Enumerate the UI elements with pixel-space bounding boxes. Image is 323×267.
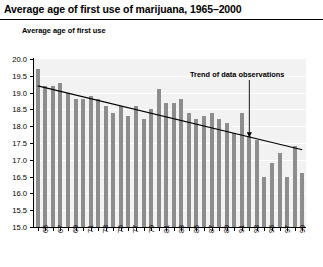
x-tick-mark (83, 228, 84, 231)
x-tick-mark (76, 228, 77, 231)
y-axis-caption: Average age of first use (22, 26, 106, 35)
x-tick-mark (136, 228, 137, 231)
page-title: Average age of first use of marijuana, 1… (4, 3, 242, 15)
x-tick-mark (98, 228, 99, 231)
chart-page: Average age of first use of marijuana, 1… (0, 0, 323, 267)
plot-area (34, 59, 306, 227)
x-tick-mark (242, 228, 243, 231)
x-tick-mark (295, 228, 296, 231)
x-tick-mark (287, 228, 288, 231)
x-tick-mark (151, 228, 152, 231)
x-tick-mark (181, 228, 182, 231)
x-tick-mark (53, 228, 54, 231)
x-tick-mark (144, 228, 145, 231)
x-tick-mark (257, 228, 258, 231)
y-tick-label: 18.5 (12, 105, 27, 114)
y-tick-label: 18.0 (12, 122, 27, 131)
x-tick-mark (212, 228, 213, 231)
x-tick-mark (174, 228, 175, 231)
y-tick-label: 16.5 (12, 172, 27, 181)
x-tick-mark (189, 228, 190, 231)
x-tick-mark (280, 228, 281, 231)
x-tick-mark (60, 228, 61, 231)
y-axis-tick-labels: 20.019.519.018.518.017.517.016.516.015.5… (0, 0, 31, 267)
x-tick-mark (113, 228, 114, 231)
x-tick-mark (166, 228, 167, 231)
x-tick-mark (159, 228, 160, 231)
x-tick-mark (204, 228, 205, 231)
x-tick-mark (302, 228, 303, 231)
x-tick-mark (91, 228, 92, 231)
x-tick-mark (264, 228, 265, 231)
trend-line (34, 59, 306, 227)
x-tick-mark (45, 228, 46, 231)
x-tick-mark (121, 228, 122, 231)
x-tick-mark (227, 228, 228, 231)
y-tick-label: 15.0 (12, 223, 27, 232)
y-tick-label: 17.5 (12, 139, 27, 148)
x-tick-mark (219, 228, 220, 231)
y-tick-label: 17.0 (12, 155, 27, 164)
x-tick-mark (38, 228, 39, 231)
y-tick-label: 19.0 (12, 88, 27, 97)
x-tick-mark (234, 228, 235, 231)
trend-annotation-label: Trend of data observations (190, 70, 284, 79)
x-tick-mark (196, 228, 197, 231)
x-tick-mark (106, 228, 107, 231)
x-tick-mark (128, 228, 129, 231)
y-tick-label: 20.0 (12, 55, 27, 64)
title-divider (0, 19, 323, 20)
y-tick-label: 16.0 (12, 189, 27, 198)
x-tick-mark (272, 228, 273, 231)
x-tick-mark (249, 228, 250, 231)
x-tick-mark (68, 228, 69, 231)
y-tick-label: 15.5 (12, 206, 27, 215)
x-axis-tick-labels: 656769717375777981838587899193959799 (34, 228, 306, 267)
y-tick-label: 19.5 (12, 71, 27, 80)
y-axis-line (33, 58, 34, 228)
